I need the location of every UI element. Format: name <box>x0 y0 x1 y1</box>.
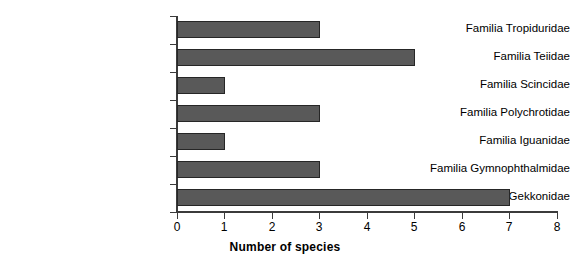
bar-polychrotidae <box>177 105 320 122</box>
x-tick-label-3: 3 <box>304 220 334 234</box>
bar-chart: Familia Tropiduridae Familia Teiidae Fam… <box>0 0 570 269</box>
bar-tropiduridae <box>177 21 320 38</box>
bar-row <box>177 128 557 156</box>
bar-iguanidae <box>177 133 225 150</box>
x-tick-mark <box>509 213 510 219</box>
bar-scincidae <box>177 77 225 94</box>
x-tick-mark <box>177 213 178 219</box>
x-tick-label-1: 1 <box>209 220 239 234</box>
x-tick-label-0: 0 <box>162 220 192 234</box>
plot-area <box>177 16 557 212</box>
x-tick-mark <box>367 213 368 219</box>
x-tick-label-5: 5 <box>399 220 429 234</box>
x-axis-title: Number of species <box>0 240 570 254</box>
x-tick-label-6: 6 <box>447 220 477 234</box>
x-tick-mark <box>414 213 415 219</box>
bar-row <box>177 100 557 128</box>
bar-gymnophthalmidae <box>177 161 320 178</box>
bar-row <box>177 72 557 100</box>
bar-gekkonidae <box>177 189 510 206</box>
x-tick-label-4: 4 <box>352 220 382 234</box>
x-tick-mark <box>272 213 273 219</box>
bar-row <box>177 156 557 184</box>
bar-row <box>177 44 557 72</box>
x-tick-mark <box>224 213 225 219</box>
bar-row <box>177 16 557 44</box>
bar-teiidae <box>177 49 415 66</box>
bar-row <box>177 184 557 212</box>
x-tick-label-7: 7 <box>494 220 524 234</box>
x-tick-mark <box>462 213 463 219</box>
x-tick-mark <box>557 213 558 219</box>
x-tick-mark <box>319 213 320 219</box>
x-tick-label-8: 8 <box>542 220 570 234</box>
x-tick-label-2: 2 <box>257 220 287 234</box>
